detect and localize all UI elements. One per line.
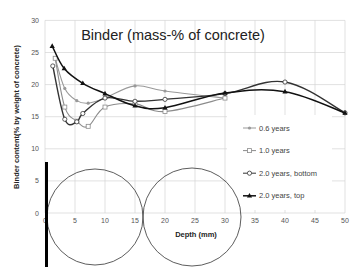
y-tick-label: 30 [31, 17, 39, 24]
x-tick-label: 40 [281, 217, 289, 224]
triangle-marker [50, 43, 55, 48]
square-marker [103, 105, 107, 109]
legend-label: 2.0 years, top [259, 191, 304, 200]
diamond-marker [133, 84, 136, 87]
y-tick-label: 25 [31, 49, 39, 56]
legend-label: 2.0 years, bottom [259, 169, 317, 178]
circle-marker [103, 96, 107, 100]
diamond-marker [87, 102, 90, 105]
y-tick-label: 10 [31, 145, 39, 152]
x-tick-label: 30 [221, 217, 229, 224]
circle-marker [63, 117, 67, 121]
diamond-marker [163, 89, 166, 92]
square-marker [248, 149, 252, 153]
legend-label: 1.0 years [259, 146, 290, 155]
x-axis-ticks: 05101520253035404550 [43, 217, 349, 224]
x-tick-label: 20 [161, 217, 169, 224]
circle-marker [133, 99, 137, 103]
circle-marker [283, 80, 287, 84]
diamond-marker [75, 99, 78, 102]
binder-chart: 051015202530 05101520253035404550 Binder… [0, 0, 362, 280]
y-tick-label: 15 [31, 113, 39, 120]
circle-marker [81, 111, 85, 115]
circle-marker [75, 120, 79, 124]
y-tick-label: 0 [35, 210, 39, 217]
y-tick-label: 20 [31, 81, 39, 88]
square-marker [163, 110, 167, 114]
circle-marker [163, 97, 167, 101]
x-tick-label: 35 [251, 217, 259, 224]
x-tick-label: 15 [131, 217, 139, 224]
annotations [45, 162, 241, 267]
x-tick-label: 45 [311, 217, 319, 224]
x-tick-label: 25 [191, 217, 199, 224]
x-tick-label: 5 [73, 217, 77, 224]
y-axis-ticks: 051015202530 [31, 17, 39, 217]
x-tick-label: 10 [101, 217, 109, 224]
chart-title: Binder (mass-% of concrete) [81, 27, 265, 43]
square-marker [86, 124, 90, 128]
y-tick-label: 5 [35, 177, 39, 184]
circle-marker [51, 64, 55, 68]
legend-label: 0.6 years [259, 124, 290, 133]
annotation-circle [47, 169, 143, 265]
circle-marker [247, 171, 251, 175]
diamond-marker [63, 87, 66, 90]
y-axis-label: Binder content(% by weight of concrete) [12, 45, 21, 189]
annotation-bar [45, 162, 48, 267]
x-axis-label: Depth (mm) [175, 230, 217, 239]
square-marker [223, 96, 227, 100]
square-marker [63, 105, 67, 109]
x-tick-label: 50 [341, 217, 349, 224]
diamond-marker [248, 126, 251, 129]
